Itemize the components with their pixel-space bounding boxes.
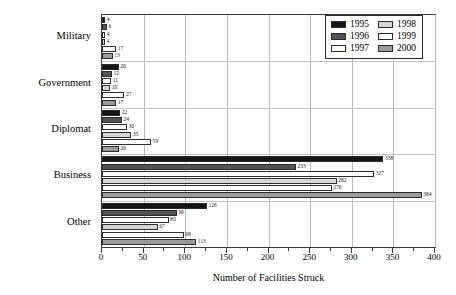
bar-business-1999[interactable] (102, 185, 332, 191)
bar-row: 17 (102, 100, 435, 106)
bar-row: 59 (102, 139, 435, 145)
bar-value-label: 338 (383, 156, 393, 162)
legend-swatch-1995 (331, 21, 346, 28)
bar-value-label: 98 (184, 232, 191, 238)
bar-government-2000[interactable] (102, 100, 116, 106)
legend-item-1996[interactable]: 1996 (331, 32, 369, 42)
legend-item-1998[interactable]: 1998 (378, 20, 416, 30)
y-label-diplomat: Diplomat (51, 124, 91, 135)
bar-value-label: 233 (296, 164, 306, 170)
bar-value-label: 20 (119, 146, 126, 152)
bar-value-label: 24 (122, 117, 129, 123)
x-tick-225 (288, 248, 289, 251)
bar-row: 27 (102, 92, 435, 98)
bar-other-1997[interactable] (102, 217, 169, 223)
bar-government-1998[interactable] (102, 85, 110, 91)
bar-group-other: 12690806798113 (102, 201, 435, 247)
bar-military-2000[interactable] (102, 53, 113, 59)
bar-row: 90 (102, 210, 435, 216)
bar-value-label: 17 (116, 46, 123, 52)
bar-government-1996[interactable] (102, 71, 112, 77)
bar-group-business: 338233327282276384 (102, 154, 435, 200)
legend-item-2000[interactable]: 2000 (378, 44, 416, 54)
bar-row: 276 (102, 185, 435, 191)
x-tick-label-200: 200 (261, 253, 275, 262)
bar-row: 10 (102, 85, 435, 91)
bar-government-1999[interactable] (102, 92, 124, 98)
bar-value-label: 4 (105, 32, 109, 38)
bar-diplomat-1995[interactable] (102, 110, 120, 116)
bar-value-label: 4 (105, 39, 109, 45)
bar-value-label: 30 (127, 124, 134, 130)
bar-diplomat-2000[interactable] (102, 146, 119, 152)
bar-row: 80 (102, 217, 435, 223)
bar-value-label: 327 (374, 171, 384, 177)
y-label-business: Business (54, 170, 91, 181)
bar-military-1999[interactable] (102, 46, 116, 52)
legend-item-1995[interactable]: 1995 (331, 20, 369, 30)
bar-row: 11 (102, 78, 435, 84)
x-tick-label-300: 300 (344, 253, 358, 262)
bar-value-label: 113 (196, 239, 206, 245)
legend-swatch-1997 (331, 45, 346, 52)
bar-value-label: 11 (111, 78, 118, 84)
x-tick-label-250: 250 (302, 253, 316, 262)
x-axis: 050100150200250300350400 (101, 248, 436, 268)
bar-row: 233 (102, 164, 435, 170)
bar-value-label: 6 (107, 24, 111, 30)
bar-value-label: 13 (113, 53, 120, 59)
x-tick-325 (372, 248, 373, 251)
bar-row: 22 (102, 110, 435, 116)
bar-diplomat-1999[interactable] (102, 139, 151, 145)
bar-value-label: 282 (337, 178, 347, 184)
bar-diplomat-1996[interactable] (102, 117, 122, 123)
legend-swatch-1996 (331, 33, 346, 40)
bar-other-1998[interactable] (102, 224, 158, 230)
bar-row: 327 (102, 171, 435, 177)
legend-label-1995: 1995 (350, 20, 369, 30)
bar-business-1998[interactable] (102, 178, 337, 184)
bar-value-label: 17 (116, 100, 123, 106)
legend-swatch-2000 (378, 45, 393, 52)
bar-other-1995[interactable] (102, 203, 207, 209)
x-tick-label-350: 350 (386, 253, 400, 262)
legend-label-1999: 1999 (397, 32, 416, 42)
bar-other-1999[interactable] (102, 232, 184, 238)
legend-label-1996: 1996 (350, 32, 369, 42)
x-tick-label-0: 0 (99, 253, 104, 262)
bar-business-1995[interactable] (102, 156, 383, 162)
bar-government-1997[interactable] (102, 78, 111, 84)
legend-item-1997[interactable]: 1997 (331, 44, 369, 54)
x-tick-label-400: 400 (427, 253, 441, 262)
gridline-x-400 (435, 15, 436, 247)
bar-row: 113 (102, 239, 435, 245)
y-label-government: Government (39, 78, 92, 89)
bar-diplomat-1997[interactable] (102, 124, 127, 130)
bar-row: 98 (102, 232, 435, 238)
x-tick-75 (163, 248, 164, 251)
bar-group-government: 201211102717 (102, 61, 435, 107)
bar-business-1997[interactable] (102, 171, 374, 177)
y-label-other: Other (67, 217, 91, 228)
bar-value-label: 27 (124, 92, 131, 98)
legend-label-2000: 2000 (397, 44, 416, 54)
legend-swatch-1998 (378, 21, 393, 28)
bar-diplomat-1998[interactable] (102, 132, 131, 138)
bar-value-label: 4 (105, 17, 109, 23)
bar-value-label: 20 (119, 64, 126, 70)
bar-business-2000[interactable] (102, 192, 422, 198)
bar-row: 30 (102, 124, 435, 130)
bar-government-1995[interactable] (102, 64, 119, 70)
x-axis-title: Number of Facilities Struck (101, 272, 436, 283)
x-tick-label-50: 50 (138, 253, 147, 262)
bar-business-1996[interactable] (102, 164, 296, 170)
legend-item-1999[interactable]: 1999 (378, 32, 416, 42)
bar-other-1996[interactable] (102, 210, 177, 216)
bar-other-2000[interactable] (102, 239, 196, 245)
bar-row: 24 (102, 117, 435, 123)
bar-group-diplomat: 222430355920 (102, 108, 435, 154)
legend-label-1998: 1998 (397, 20, 416, 30)
y-axis-category-labels: MilitaryGovernmentDiplomatBusinessOther (0, 0, 99, 295)
bar-value-label: 22 (120, 110, 127, 116)
bar-value-label: 59 (151, 139, 158, 145)
